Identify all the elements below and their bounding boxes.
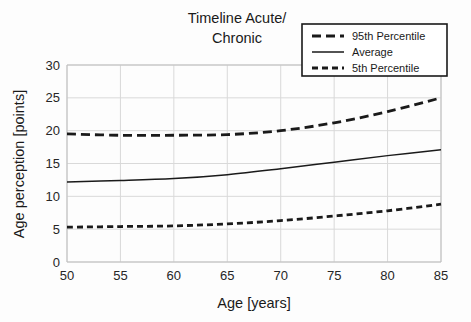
legend-label-95th-percentile: 95th Percentile (352, 30, 425, 42)
legend-label-average: Average (352, 46, 393, 58)
chart-title-line-1: Timeline Acute/ (188, 10, 288, 26)
y-tick-label: 5 (53, 222, 60, 237)
legend-label-5th-percentile: 5th Percentile (352, 62, 419, 74)
chart-canvas: 051015202530 5055606570758085 Timeline A… (0, 0, 471, 322)
y-tick-label: 10 (46, 189, 60, 204)
x-tick-label: 55 (113, 268, 127, 283)
chart-title-line-2: Chronic (212, 30, 262, 46)
x-tick-label: 50 (60, 268, 74, 283)
x-tick-label: 70 (273, 268, 287, 283)
y-axis-title: Age perception [points] (11, 90, 27, 238)
x-tick-label: 85 (434, 268, 448, 283)
x-tick-label: 75 (327, 268, 341, 283)
y-tick-label: 30 (46, 58, 60, 73)
x-axis-title: Age [years] (217, 295, 290, 311)
chart-legend[interactable]: 95th PercentileAverage5th Percentile (302, 24, 447, 76)
x-tick-label: 80 (380, 268, 394, 283)
chart-figure: 051015202530 5055606570758085 Timeline A… (0, 0, 471, 322)
y-tick-label: 20 (46, 123, 60, 138)
y-tick-label: 25 (46, 90, 60, 105)
y-tick-label: 15 (46, 156, 60, 171)
x-tick-label: 60 (167, 268, 181, 283)
x-tick-label: 65 (220, 268, 234, 283)
